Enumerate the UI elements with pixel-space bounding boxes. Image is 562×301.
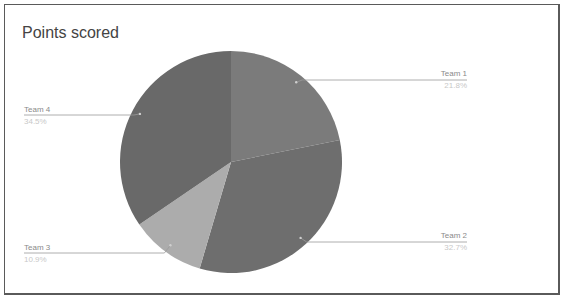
pct-team-4: 34.5% <box>24 117 47 127</box>
pct-team-1: 21.8% <box>400 81 467 91</box>
label-team-3: Team 3 <box>24 243 50 253</box>
leader-dot <box>139 113 141 115</box>
label-team-2: Team 2 <box>400 231 467 241</box>
pct-team-3: 10.9% <box>24 255 47 265</box>
pct-team-2: 32.7% <box>400 243 467 253</box>
label-team-4: Team 4 <box>24 105 50 115</box>
pie-chart <box>0 0 562 301</box>
leader-dot <box>299 237 301 239</box>
label-team-1: Team 1 <box>400 69 467 79</box>
leader-dot <box>169 244 171 246</box>
leader-dot <box>295 81 297 83</box>
